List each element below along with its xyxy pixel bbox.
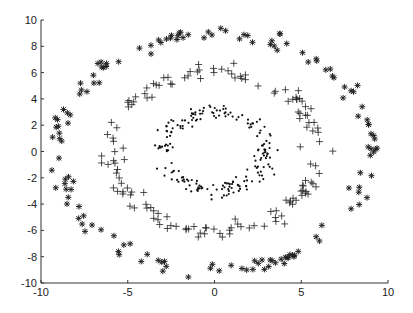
y-tick-label: 8 [31, 40, 37, 52]
x-tick-label: 10 [382, 286, 394, 298]
x-tick-label: 0 [211, 286, 217, 298]
series-asterisk [49, 25, 380, 280]
y-tick-label: 0 [31, 146, 37, 158]
series-dot [154, 105, 279, 201]
x-tick-label: -5 [123, 286, 133, 298]
scatter-chart: -10-50510 1086420-2-4-6-8-10 [0, 0, 413, 313]
y-tick-label: -2 [27, 172, 37, 184]
y-tick-label: 4 [31, 93, 37, 105]
y-tick-label: -4 [27, 198, 37, 210]
data-points [49, 25, 380, 280]
y-tick-label: 10 [25, 14, 37, 26]
y-tick-label: 2 [31, 119, 37, 131]
y-tick-label: -8 [27, 251, 37, 263]
y-tick-label: -6 [27, 224, 37, 236]
x-tick-label: 5 [298, 286, 304, 298]
y-tick-label: 6 [31, 67, 37, 79]
series-plus [98, 60, 336, 241]
y-tick-label: -10 [21, 277, 37, 289]
